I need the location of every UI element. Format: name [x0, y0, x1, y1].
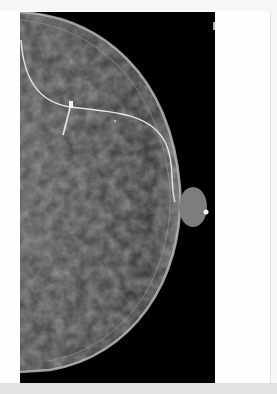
- bottom-bar: [0, 383, 277, 394]
- mammogram-viewer: [20, 12, 215, 383]
- mammogram-image: [20, 12, 215, 383]
- viewer-marker-tick: [213, 22, 215, 30]
